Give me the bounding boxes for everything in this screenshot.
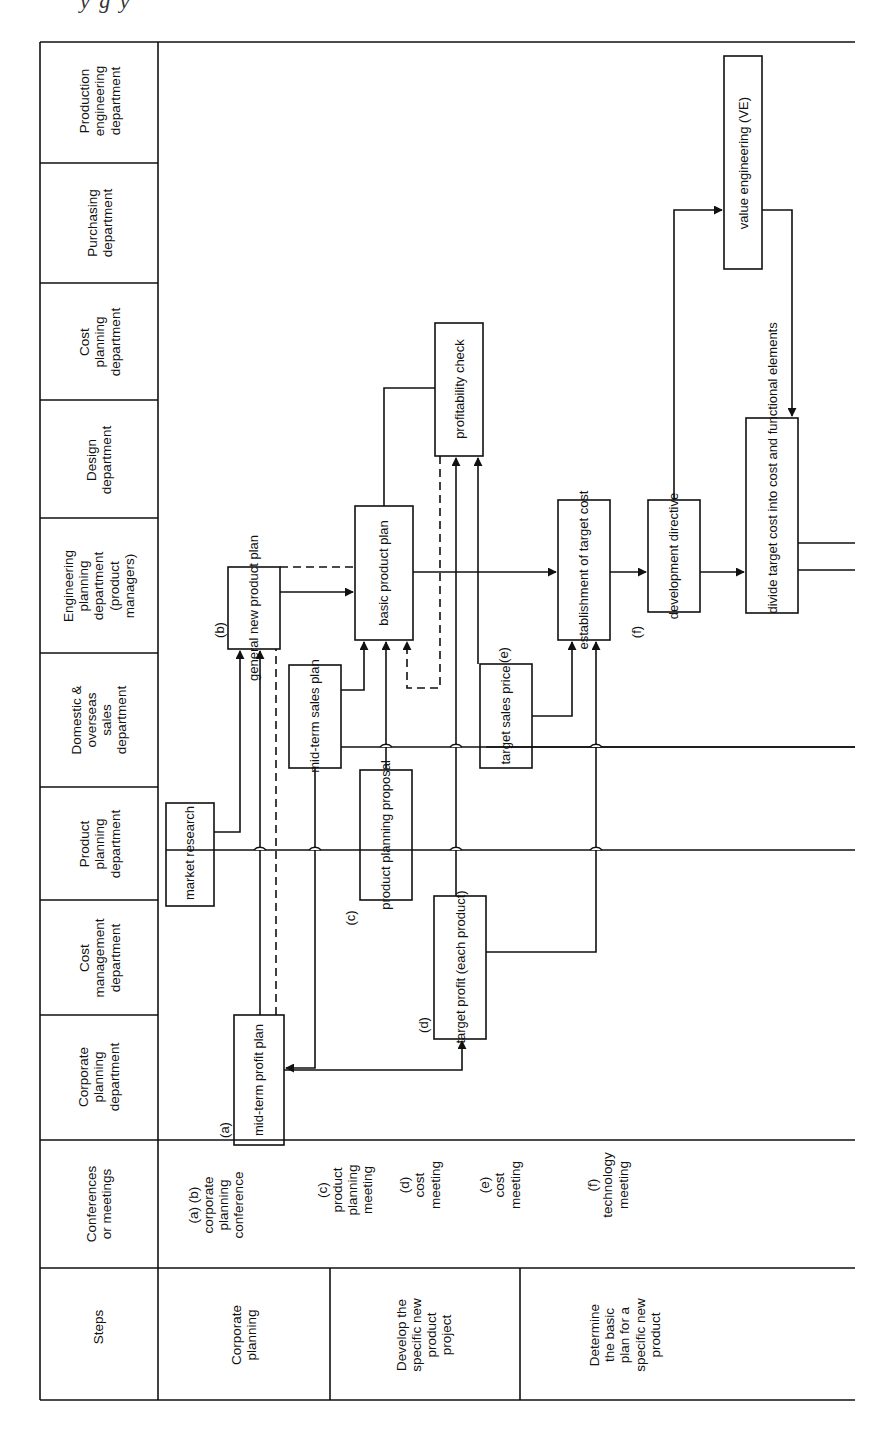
row-header-conferences: Conferences or meetings: [40, 1140, 158, 1268]
node-development-directive[interactable]: development directive: [649, 500, 699, 612]
conference-technology: (f) technology meeting: [573, 1130, 643, 1240]
node-target-profit[interactable]: target profit (each product): [436, 896, 486, 1039]
step-develop-project: Develop the specific new product project: [359, 1271, 489, 1399]
node-establishment-of-target-cost[interactable]: establishment of target cost: [559, 500, 609, 640]
dept-purchasing: Purchasing department: [41, 164, 159, 283]
dept-product-planning: Product planning department: [41, 788, 159, 901]
tag-e: (e): [494, 640, 514, 670]
dept-sales: Domestic & overseas sales department: [40, 653, 158, 787]
node-value-engineering[interactable]: value engineering (VE): [725, 57, 763, 270]
dept-engineering-planning: Engineering planning department (product…: [40, 519, 158, 653]
conference-cost-d: (d) cost meeting: [385, 1130, 455, 1240]
node-product-planning-proposal[interactable]: product planning proposal: [361, 770, 411, 900]
tag-b: (b): [210, 615, 230, 645]
node-divide-target-cost[interactable]: divide target cost into cost and functio…: [747, 419, 799, 614]
conference-product-planning: (c) product planning meeting: [305, 1135, 385, 1245]
step-corporate-planning: Corporate planning: [179, 1271, 309, 1399]
conference-cost-e: (e) cost meeting: [465, 1130, 535, 1240]
dept-cost-management: Cost management department: [41, 901, 159, 1016]
row-header-steps: Steps: [40, 1261, 158, 1393]
node-mid-term-sales-plan[interactable]: mid-term sales plan: [290, 665, 340, 768]
conference-corporate-planning: (a) (b) corporate planning conference: [161, 1150, 271, 1260]
tag-c: (c): [341, 903, 361, 933]
tag-a: (a): [215, 1115, 235, 1145]
dept-cost-planning: Cost planning department: [41, 284, 159, 400]
tag-d: (d): [414, 1010, 434, 1040]
node-mid-term-profit-plan[interactable]: mid-term profit plan: [234, 1015, 284, 1145]
tag-f: (f): [627, 617, 647, 647]
node-basic-product-plan[interactable]: basic product plan: [359, 506, 409, 640]
dept-design: Design department: [40, 401, 158, 519]
step-determine-basic-plan: Determine the basic plan for a specific …: [560, 1271, 690, 1399]
node-market-research[interactable]: market research: [165, 802, 215, 905]
node-profitability-check[interactable]: profitability check: [436, 323, 484, 456]
node-general-new-product-plan[interactable]: general new product plan: [229, 567, 279, 649]
dept-production-engineering: Production engineering department: [41, 41, 159, 162]
node-target-sales-price[interactable]: target sales price: [481, 663, 531, 767]
dept-corporate-planning: Corporate planning department: [40, 1015, 158, 1140]
